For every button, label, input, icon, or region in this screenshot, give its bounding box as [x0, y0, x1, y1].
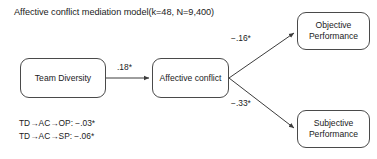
node-affective-conflict-label: Affective conflict: [160, 73, 222, 84]
node-objective-performance-label: Objective Performance: [309, 20, 358, 42]
path-label-b-subjective: −.33*: [231, 98, 251, 108]
node-subjective-performance-line1: Subjective: [314, 118, 354, 128]
node-objective-performance-line1: Objective: [316, 20, 352, 30]
node-objective-performance-line2: Performance: [309, 31, 358, 41]
indirect-effect-subjective: TD→AC→SP: −.06*: [19, 130, 95, 143]
figure-title: Affective conflict mediation model(k=48,…: [14, 6, 214, 18]
node-team-diversity-label: Team Diversity: [35, 73, 91, 84]
path-label-b-objective: −.16*: [231, 33, 251, 43]
node-team-diversity: Team Diversity: [20, 58, 106, 98]
path-label-a: .18*: [117, 62, 132, 72]
node-subjective-performance-label: Subjective Performance: [309, 118, 358, 140]
node-subjective-performance-line2: Performance: [309, 129, 358, 139]
node-subjective-performance: Subjective Performance: [297, 110, 370, 148]
node-objective-performance: Objective Performance: [297, 12, 370, 50]
node-affective-conflict: Affective conflict: [152, 58, 229, 98]
indirect-effect-objective: TD→AC→OP: −.03*: [19, 117, 95, 130]
mediation-model-figure: Affective conflict mediation model(k=48,…: [0, 0, 377, 159]
indirect-effects-note: TD→AC→OP: −.03* TD→AC→SP: −.06*: [19, 117, 95, 142]
